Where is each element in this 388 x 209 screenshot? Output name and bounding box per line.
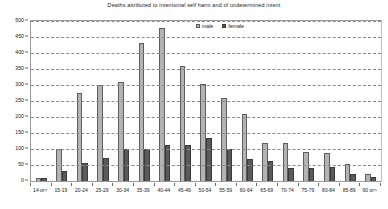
legend-item-female: female xyxy=(222,23,244,29)
y-axis-tick-label: 0 xyxy=(21,177,24,183)
x-axis-tick-mark xyxy=(215,183,216,186)
y-axis-tick-mark xyxy=(25,84,28,85)
bar-female xyxy=(165,145,171,181)
y-axis-tick-mark xyxy=(25,20,28,21)
y-axis-tick-mark xyxy=(25,52,28,53)
y-axis-tick-label: 200 xyxy=(15,113,24,119)
bar-female xyxy=(247,159,253,181)
x-axis-tick-mark xyxy=(298,183,299,186)
bar-female xyxy=(41,178,47,181)
x-axis-tick-mark xyxy=(277,183,278,186)
y-axis-tick-mark xyxy=(25,132,28,133)
bar-female xyxy=(185,145,191,181)
bar-female xyxy=(309,168,315,181)
x-axis-tick-label: 55-59 xyxy=(219,187,232,193)
x-axis-tick-mark xyxy=(359,183,360,186)
y-axis-tick-mark xyxy=(25,36,28,37)
plot-area xyxy=(30,20,382,182)
bar-female xyxy=(371,177,377,181)
gridline xyxy=(31,53,381,54)
chart-title: Deaths attributed to intentional self ha… xyxy=(0,2,388,8)
x-axis-tick-mark xyxy=(339,183,340,186)
x-axis-tick-label: 75-79 xyxy=(302,187,315,193)
gridline xyxy=(31,85,381,86)
x-axis-tick-mark xyxy=(30,183,31,186)
x-axis-tick-label: 70-74 xyxy=(281,187,294,193)
x-axis-tick-label: 30-34 xyxy=(116,187,129,193)
chart-legend: male female xyxy=(196,23,244,29)
x-axis-tick-label: 40-44 xyxy=(157,187,170,193)
gridline xyxy=(31,37,381,38)
legend-item-male: male xyxy=(196,23,213,29)
x-axis-tick-label: 65-69 xyxy=(260,187,273,193)
y-axis-tick-label: 400 xyxy=(15,49,24,55)
gridline xyxy=(31,21,381,22)
y-axis-tick-label: 50 xyxy=(18,161,24,167)
gridline xyxy=(31,117,381,118)
legend-label-male: male xyxy=(202,23,213,29)
x-axis-tick-label: 90 or> xyxy=(363,187,377,193)
y-axis-tick-label: 300 xyxy=(15,81,24,87)
x-axis: 14 or<15-1920-2425-2930-3435-3940-4445-4… xyxy=(30,183,382,203)
bar-female xyxy=(350,174,356,181)
x-axis-tick-mark xyxy=(92,183,93,186)
y-axis-tick-label: 500 xyxy=(15,17,24,23)
x-axis-tick-mark xyxy=(318,183,319,186)
y-axis-tick-mark xyxy=(25,164,28,165)
bar-female xyxy=(330,167,336,181)
x-axis-tick-label: 50-54 xyxy=(199,187,212,193)
x-axis-tick-label: 25-29 xyxy=(96,187,109,193)
x-axis-tick-mark xyxy=(380,183,381,186)
gridline xyxy=(31,69,381,70)
gridline xyxy=(31,101,381,102)
x-axis-tick-mark xyxy=(51,183,52,186)
x-axis-tick-label: 45-49 xyxy=(178,187,191,193)
gridline xyxy=(31,165,381,166)
x-axis-tick-mark xyxy=(154,183,155,186)
bar-female xyxy=(206,138,212,181)
y-axis-tick-mark xyxy=(25,116,28,117)
x-axis-tick-mark xyxy=(112,183,113,186)
x-axis-tick-mark xyxy=(71,183,72,186)
x-axis-tick-label: 80-84 xyxy=(322,187,335,193)
gridline xyxy=(31,133,381,134)
y-axis-tick-label: 350 xyxy=(15,65,24,71)
x-axis-tick-label: 20-24 xyxy=(75,187,88,193)
y-axis-tick-label: 150 xyxy=(15,129,24,135)
x-axis-tick-mark xyxy=(256,183,257,186)
y-axis-tick-label: 250 xyxy=(15,97,24,103)
bar-female xyxy=(288,168,294,181)
legend-label-female: female xyxy=(228,23,244,29)
gridline xyxy=(31,149,381,150)
bar-female xyxy=(103,158,109,181)
chart-container: Deaths attributed to intentional self ha… xyxy=(0,0,388,209)
x-axis-tick-label: 85-89 xyxy=(343,187,356,193)
legend-swatch-male-icon xyxy=(196,24,200,28)
x-axis-tick-label: 14 or< xyxy=(33,187,47,193)
y-axis-tick-mark xyxy=(25,148,28,149)
bar-female xyxy=(82,163,88,181)
x-axis-tick-label: 60-64 xyxy=(240,187,253,193)
x-axis-tick-mark xyxy=(236,183,237,186)
legend-swatch-female-icon xyxy=(222,24,226,28)
x-axis-tick-label: 15-19 xyxy=(54,187,67,193)
y-axis-tick-mark xyxy=(25,68,28,69)
y-axis-tick-label: 100 xyxy=(15,145,24,151)
x-axis-tick-mark xyxy=(195,183,196,186)
x-axis-tick-mark xyxy=(133,183,134,186)
y-axis-tick-mark xyxy=(25,100,28,101)
x-axis-tick-label: 35-39 xyxy=(137,187,150,193)
bar-female xyxy=(62,171,68,181)
y-axis: 050100150200250300350400450500 xyxy=(0,20,28,182)
x-axis-tick-mark xyxy=(174,183,175,186)
y-axis-tick-mark xyxy=(25,180,28,181)
y-axis-tick-label: 450 xyxy=(15,33,24,39)
